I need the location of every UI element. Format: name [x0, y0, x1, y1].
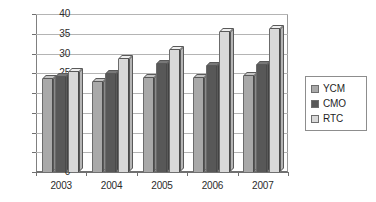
- x-tick-mark-2006: [238, 172, 239, 176]
- bar-face: [55, 77, 66, 172]
- bar-face: [143, 78, 154, 172]
- y-tick-label-30: 30: [44, 49, 70, 59]
- bar-side-face: [180, 46, 184, 172]
- y-tick-mark-30: [32, 54, 36, 55]
- x-tick-label-2005: 2005: [139, 180, 185, 191]
- bar-side-face: [230, 28, 234, 172]
- x-tick-mark-2005: [187, 172, 188, 176]
- bar-face: [193, 78, 204, 172]
- bar-side-face: [129, 55, 133, 172]
- bar-rtc-2003: [68, 68, 83, 172]
- x-tick-mark-origin: [36, 172, 37, 176]
- bar-face: [206, 66, 217, 172]
- bar-side-face: [79, 68, 83, 172]
- bar-face: [105, 74, 116, 172]
- x-tick-label-2004: 2004: [89, 180, 135, 191]
- y-tick-mark-15: [32, 113, 36, 114]
- bar-face: [92, 82, 103, 172]
- bar-face: [68, 72, 79, 172]
- y-tick-label-35: 35: [44, 29, 70, 39]
- x-tick-mark-2003: [86, 172, 87, 176]
- gridline-0: [36, 172, 288, 173]
- bar-face: [256, 65, 267, 172]
- legend: YCMCMORTC: [305, 76, 367, 131]
- legend-item-rtc[interactable]: RTC: [311, 111, 362, 126]
- legend-label: RTC: [323, 113, 343, 124]
- y-tick-mark-20: [32, 93, 36, 94]
- bar-chart: 0510152025303540 20032004200520062007 YC…: [0, 0, 376, 202]
- y-tick-mark-10: [32, 133, 36, 134]
- bar-face: [156, 64, 167, 172]
- x-tick-label-2006: 2006: [189, 180, 235, 191]
- legend-label: YCM: [323, 83, 345, 94]
- gridline-30: [36, 54, 288, 55]
- bar-face: [118, 59, 129, 172]
- legend-item-cmo[interactable]: CMO: [311, 96, 362, 111]
- y-tick-mark-35: [32, 34, 36, 35]
- bar-face: [169, 50, 180, 172]
- x-tick-label-2003: 2003: [38, 180, 84, 191]
- y-tick-label-40: 40: [44, 9, 70, 19]
- x-tick-label-2007: 2007: [240, 180, 286, 191]
- y-tick-mark-25: [32, 73, 36, 74]
- legend-item-ycm[interactable]: YCM: [311, 81, 362, 96]
- bar-rtc-2006: [219, 28, 234, 172]
- gridline-35: [36, 34, 288, 35]
- legend-label: CMO: [323, 98, 346, 109]
- x-tick-mark-2007: [288, 172, 289, 176]
- y-tick-mark-5: [32, 152, 36, 153]
- x-tick-mark-2004: [137, 172, 138, 176]
- gridline-40: [36, 14, 288, 15]
- bar-side-face: [280, 25, 284, 172]
- legend-swatch-icon: [311, 100, 319, 108]
- bar-face: [243, 76, 254, 172]
- legend-swatch-icon: [311, 85, 319, 93]
- bar-rtc-2005: [169, 46, 184, 172]
- bar-face: [42, 79, 53, 172]
- legend-swatch-icon: [311, 115, 319, 123]
- bar-face: [219, 32, 230, 172]
- bar-rtc-2004: [118, 55, 133, 172]
- bar-face: [269, 29, 280, 172]
- bar-rtc-2007: [269, 25, 284, 172]
- y-tick-mark-40: [32, 14, 36, 15]
